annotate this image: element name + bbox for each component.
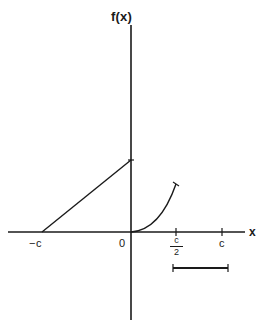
tick-label-c-over-two: c 2 <box>170 236 183 257</box>
fraction-denominator: 2 <box>170 247 183 257</box>
tick-label-origin: 0 <box>119 238 125 249</box>
curved-branch-segment <box>131 184 176 232</box>
function-graph-figure: f(x) x −c 0 c 2 c <box>0 0 269 328</box>
x-axis-label: x <box>249 226 256 238</box>
tick-label-negative-c: −c <box>29 238 42 249</box>
tick-label-c: c <box>219 238 225 249</box>
y-axis-label: f(x) <box>111 10 132 23</box>
fraction-numerator: c <box>170 236 183 246</box>
graph-canvas <box>0 0 269 328</box>
linear-branch-segment <box>42 160 131 232</box>
